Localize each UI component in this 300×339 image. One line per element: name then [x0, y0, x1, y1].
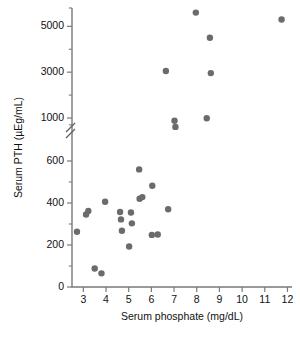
data-point — [139, 194, 145, 200]
chart-canvas: 02004006001000300050003456789101112Serum… — [0, 0, 300, 339]
data-point — [118, 216, 124, 222]
data-point — [278, 16, 284, 22]
data-point — [126, 243, 132, 249]
x-tick-label: 12 — [282, 293, 294, 305]
data-point — [102, 199, 108, 205]
data-point — [149, 232, 155, 238]
data-point — [91, 265, 97, 271]
data-point — [193, 9, 199, 15]
data-point — [207, 35, 213, 41]
y-tick-label: 200 — [46, 238, 64, 250]
data-point — [85, 208, 91, 214]
data-point — [117, 209, 123, 215]
y-tick-label: 400 — [46, 196, 64, 208]
y-tick-label: 3000 — [41, 65, 65, 77]
x-tick-label: 4 — [103, 293, 109, 305]
y-tick-label: 5000 — [41, 19, 65, 31]
y-axis-title: Serum PTH (µEg/mL) — [12, 97, 24, 198]
data-point — [98, 270, 104, 276]
data-point — [155, 231, 161, 237]
data-point — [204, 115, 210, 121]
data-point — [165, 206, 171, 212]
data-point — [171, 118, 177, 124]
y-tick-label: 1000 — [41, 111, 65, 123]
data-point — [172, 124, 178, 130]
x-tick-label: 3 — [80, 293, 86, 305]
data-point — [149, 183, 155, 189]
scatter-chart: 02004006001000300050003456789101112Serum… — [0, 0, 300, 339]
y-tick-label: 600 — [46, 154, 64, 166]
x-tick-label: 5 — [126, 293, 132, 305]
data-point — [163, 68, 169, 74]
data-point — [128, 209, 134, 215]
data-point — [74, 229, 80, 235]
data-point — [129, 220, 135, 226]
x-tick-label: 9 — [217, 293, 223, 305]
data-point — [119, 228, 125, 234]
x-tick-label: 7 — [171, 293, 177, 305]
data-point — [136, 166, 142, 172]
x-axis-title: Serum phosphate (mg/dL) — [121, 310, 243, 322]
x-tick-label: 6 — [148, 293, 154, 305]
data-point — [208, 70, 214, 76]
plot-axes — [72, 8, 292, 287]
x-tick-label: 10 — [236, 293, 248, 305]
x-tick-label: 11 — [259, 293, 270, 305]
y-tick-label: 0 — [58, 280, 64, 292]
x-tick-label: 8 — [194, 293, 200, 305]
